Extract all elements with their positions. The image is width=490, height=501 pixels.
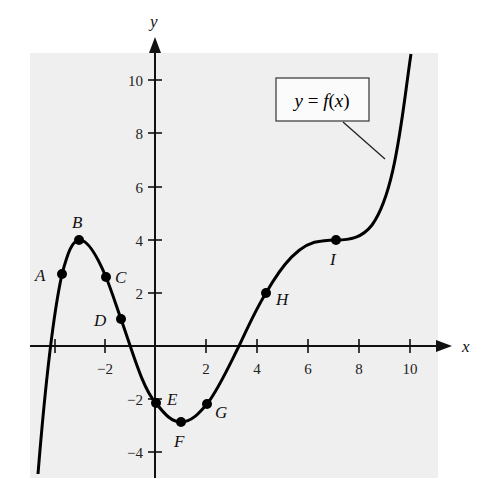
function-graph: x y −2 2 4 6 8 10 10 8 6 4 2 −2 −4	[0, 0, 490, 501]
y-tick-label: −4	[127, 445, 143, 461]
x-tick-label: 8	[355, 361, 363, 377]
point-label-g: G	[215, 403, 227, 422]
point-c	[101, 272, 111, 282]
point-i	[331, 235, 341, 245]
x-axis-arrow-icon	[436, 340, 452, 352]
point-b	[74, 235, 84, 245]
y-axis-arrow-icon	[149, 37, 161, 53]
y-axis-label: y	[148, 12, 158, 31]
y-tick-label: 6	[136, 180, 144, 196]
x-tick-label: 6	[304, 361, 312, 377]
point-label-h: H	[275, 290, 290, 309]
y-tick-label: 4	[136, 233, 144, 249]
x-tick-label: −2	[97, 361, 113, 377]
x-tick-label: 4	[253, 361, 261, 377]
point-f	[176, 417, 186, 427]
point-h	[261, 288, 271, 298]
point-a	[57, 269, 67, 279]
x-axis-label: x	[461, 337, 470, 356]
point-e	[151, 398, 161, 408]
point-d	[116, 314, 126, 324]
point-label-a: A	[34, 266, 46, 285]
point-label-e: E	[166, 390, 178, 409]
point-label-b: B	[72, 213, 83, 232]
callout-equation: y = f(x)	[292, 90, 349, 112]
point-label-d: D	[93, 311, 107, 330]
y-tick-label: 10	[128, 73, 143, 89]
point-label-f: F	[173, 432, 185, 451]
point-label-c: C	[115, 268, 127, 287]
x-tick-label: 2	[202, 361, 210, 377]
y-tick-label: 2	[136, 286, 144, 302]
point-g	[202, 399, 212, 409]
y-tick-label: −2	[127, 392, 143, 408]
y-tick-label: 8	[136, 126, 144, 142]
x-tick-label: 10	[403, 361, 418, 377]
plot-background	[30, 53, 438, 478]
